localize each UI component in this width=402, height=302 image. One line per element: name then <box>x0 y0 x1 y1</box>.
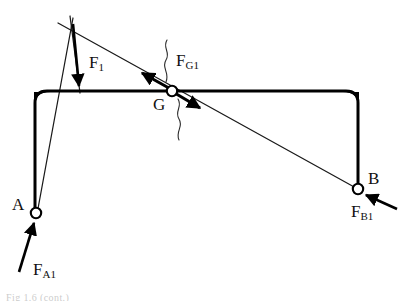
label-point-b: B <box>368 170 379 187</box>
label-force-f1-sub: 1 <box>98 61 104 73</box>
force-vectors <box>19 24 397 272</box>
label-force-fg1: FG1 <box>176 52 199 69</box>
mechanics-diagram: A B G F1 FG1 FA1 FB1 Fig 1.6 (cont.) <box>0 0 402 302</box>
pin-g[interactable] <box>167 86 177 96</box>
clipped-caption: Fig 1.6 (cont.) <box>6 292 126 301</box>
label-force-fa1-sub: A1 <box>42 268 55 280</box>
squiggle-above-g <box>164 40 167 82</box>
reaction-line-through-a <box>37 18 73 214</box>
label-point-a: A <box>12 196 24 213</box>
label-force-fb1-sub: B1 <box>360 210 373 222</box>
label-force-fb1: FB1 <box>351 203 373 220</box>
diagram-canvas <box>0 0 402 302</box>
force-fa1-arrow <box>19 223 34 272</box>
label-force-fa1: FA1 <box>33 261 56 278</box>
label-point-g: G <box>153 96 165 113</box>
label-force-fg1-sub: G1 <box>185 59 198 71</box>
three-force-action-line <box>58 23 356 188</box>
construction-lines <box>37 16 356 214</box>
rigid-frame <box>35 91 358 210</box>
label-force-f1: F1 <box>89 54 104 71</box>
pin-b[interactable] <box>353 184 363 194</box>
pin-a[interactable] <box>31 208 41 218</box>
squiggle-below-g <box>177 99 180 140</box>
frame-outline <box>35 91 358 210</box>
